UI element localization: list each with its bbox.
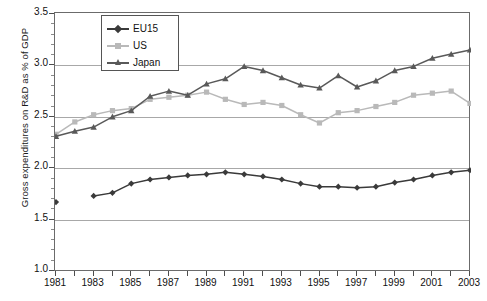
- y-axis-tick-label: 1.5: [4, 212, 48, 223]
- data-point-marker: [91, 112, 96, 117]
- x-axis-tick-label: 1993: [261, 277, 301, 288]
- data-point-marker: [336, 110, 341, 115]
- y-axis-tick-label: 1.0: [4, 263, 48, 274]
- x-axis-tick-label: 1987: [148, 277, 188, 288]
- x-axis-tick-label: 1999: [374, 277, 414, 288]
- series-line: [94, 170, 470, 196]
- data-point-marker: [298, 112, 303, 117]
- y-axis-tick-label: 3.0: [4, 57, 48, 68]
- x-axis-tick-label: 1991: [223, 277, 263, 288]
- data-point-marker: [448, 169, 454, 175]
- legend-item-japan[interactable]: Japan: [102, 54, 178, 71]
- data-point-marker: [373, 78, 379, 84]
- data-point-marker: [467, 47, 471, 53]
- data-point-marker: [223, 97, 228, 102]
- data-point-marker: [241, 63, 247, 69]
- data-point-marker: [166, 88, 172, 94]
- data-point-marker: [203, 171, 209, 177]
- x-axis-tick-label: 2001: [411, 277, 451, 288]
- data-point-marker: [242, 102, 247, 107]
- data-point-marker: [467, 167, 471, 173]
- x-axis-tick-label: 2003: [449, 277, 487, 288]
- data-point-marker: [354, 185, 360, 191]
- x-axis-tick-label: 1997: [336, 277, 376, 288]
- x-axis-tick-label: 1981: [35, 277, 75, 288]
- data-point-marker: [335, 72, 341, 78]
- data-point-marker: [373, 184, 379, 190]
- data-point-marker: [222, 169, 228, 175]
- y-axis-tick-label: 2.0: [4, 160, 48, 171]
- data-point-marker: [91, 193, 97, 199]
- data-point-marker: [411, 93, 416, 98]
- x-axis-tick-label: 1985: [110, 277, 150, 288]
- data-point-marker: [241, 171, 247, 177]
- data-point-marker: [147, 176, 153, 182]
- legend-marker-square-icon: [107, 40, 129, 51]
- x-axis-tick-label: 1983: [73, 277, 113, 288]
- data-point-marker: [410, 176, 416, 182]
- legend-item-eu15[interactable]: EU15: [102, 20, 178, 37]
- legend-marker-diamond-icon: [107, 23, 129, 34]
- data-point-marker: [317, 120, 322, 125]
- data-point-marker: [166, 95, 171, 100]
- x-axis-tick-label: 1995: [299, 277, 339, 288]
- legend-label: US: [133, 40, 147, 51]
- data-point-marker: [429, 172, 435, 178]
- data-point-marker: [166, 174, 172, 180]
- data-point-marker: [185, 172, 191, 178]
- data-point-marker: [373, 104, 378, 109]
- data-point-marker: [279, 176, 285, 182]
- series-eu15: [55, 167, 471, 205]
- data-point-marker: [279, 103, 284, 108]
- series-us: [55, 89, 471, 137]
- data-point-marker: [109, 190, 115, 196]
- x-axis-tick-label: 1989: [186, 277, 226, 288]
- legend-item-us[interactable]: US: [102, 37, 178, 54]
- series-line: [56, 91, 470, 134]
- data-point-marker: [316, 184, 322, 190]
- data-point-marker: [430, 91, 435, 96]
- data-point-marker: [260, 173, 266, 179]
- chart-legend: EU15 US Japan: [101, 15, 179, 71]
- legend-marker-triangle-icon: [107, 57, 129, 68]
- data-point-marker: [354, 108, 359, 113]
- data-point-marker: [204, 90, 209, 95]
- legend-label: Japan: [133, 57, 160, 68]
- data-point-marker: [392, 100, 397, 105]
- data-point-marker: [128, 181, 134, 187]
- data-point-marker: [110, 108, 115, 113]
- data-point-marker: [335, 184, 341, 190]
- data-point-marker: [72, 119, 77, 124]
- rd-expenditure-line-chart: Gross expenditures on R&D as % of GDP 1.…: [0, 0, 487, 301]
- data-point-marker: [90, 124, 96, 130]
- y-axis-tick-label: 2.5: [4, 109, 48, 120]
- data-point-marker: [298, 181, 304, 187]
- data-point-marker: [55, 199, 59, 205]
- data-point-marker: [260, 100, 265, 105]
- legend-label: EU15: [133, 23, 158, 34]
- y-axis-tick-label: 3.5: [4, 6, 48, 17]
- data-point-marker: [467, 101, 471, 106]
- data-point-marker: [392, 179, 398, 185]
- data-point-marker: [449, 89, 454, 94]
